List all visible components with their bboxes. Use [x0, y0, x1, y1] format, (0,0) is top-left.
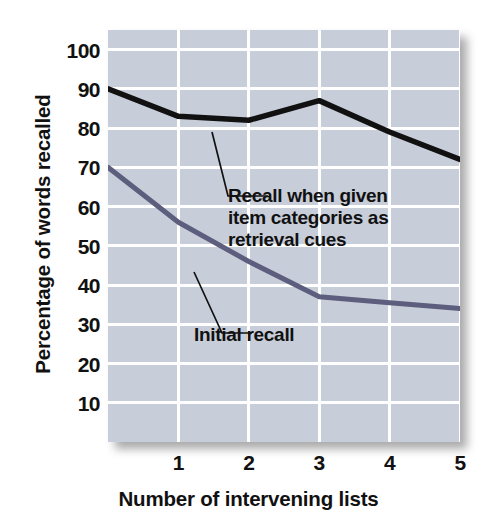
y-axis-tick-label: 60 — [48, 196, 100, 217]
annotation-line: retrieval cues — [228, 229, 408, 251]
x-axis-tick-label: 1 — [165, 452, 191, 473]
annotation-line: Recall when given — [228, 185, 408, 207]
x-axis-tick-label: 5 — [447, 452, 473, 473]
series-line-cued-recall — [108, 89, 460, 160]
x-axis-title: Number of intervening lists — [0, 487, 497, 511]
y-axis-tick-label: 20 — [48, 353, 100, 374]
x-axis-tick-labels: 12345 — [108, 452, 460, 480]
y-axis-tick-label: 80 — [48, 118, 100, 139]
y-axis-tick-label: 30 — [48, 314, 100, 335]
x-axis-tick-label: 2 — [236, 452, 262, 473]
annotation-initial-recall: Initial recall — [194, 324, 344, 346]
annotation-line: item categories as — [228, 207, 408, 229]
y-axis-tick-label: 100 — [48, 39, 100, 60]
x-axis-tick-label: 4 — [377, 452, 403, 473]
y-axis-tick-labels: 100908070605040302010 — [48, 30, 100, 442]
y-axis-tick-label: 40 — [48, 275, 100, 296]
y-axis-tick-label: 50 — [48, 235, 100, 256]
y-axis-tick-label: 90 — [48, 78, 100, 99]
y-axis-tick-label: 10 — [48, 392, 100, 413]
x-axis-tick-label: 3 — [306, 452, 332, 473]
line-chart: Percentage of words recalled 10090807060… — [0, 0, 497, 528]
annotation-cued-recall: Recall when givenitem categories asretri… — [228, 185, 408, 251]
annotation-line: Initial recall — [194, 324, 344, 346]
y-axis-tick-label: 70 — [48, 157, 100, 178]
